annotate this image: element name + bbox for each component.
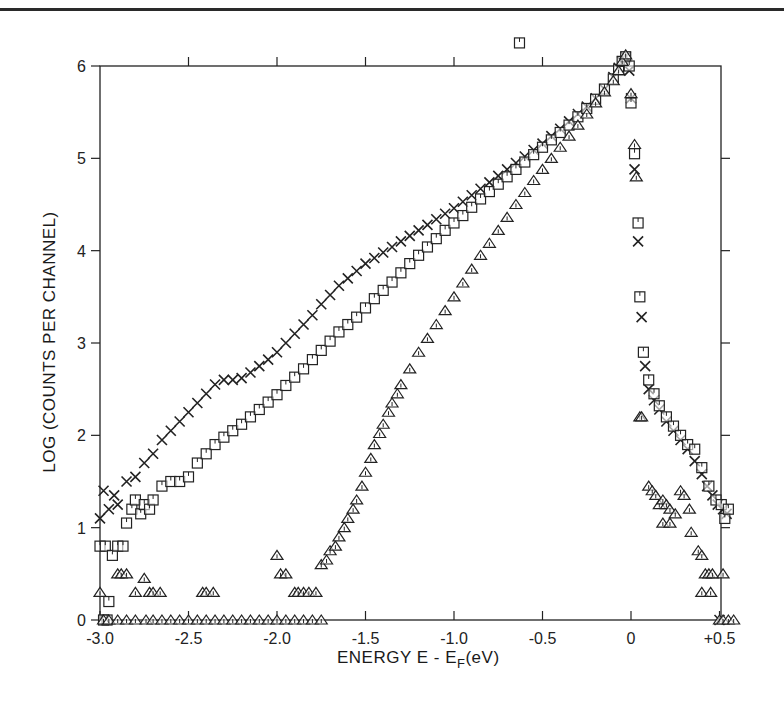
marker-cross xyxy=(316,299,326,309)
marker-cross xyxy=(637,312,647,322)
y-tick-label: 3 xyxy=(77,335,86,352)
marker-cross xyxy=(422,220,432,230)
plot-border xyxy=(100,66,721,620)
marker-cross xyxy=(148,449,158,459)
marker-cross xyxy=(237,373,247,383)
marker-cross xyxy=(414,225,424,235)
y-tick-label: 6 xyxy=(77,58,86,75)
marker-cross xyxy=(369,253,379,263)
x-tick-label: -2.0 xyxy=(263,630,291,647)
x-tick-label: -0.5 xyxy=(529,630,557,647)
marker-cross xyxy=(272,347,282,357)
marker-cross xyxy=(175,416,185,426)
series-squares xyxy=(95,38,733,625)
x-axis-label-unit: (eV) xyxy=(465,648,499,667)
marker-cross xyxy=(396,236,406,246)
marker-cross xyxy=(307,310,317,320)
marker-cross xyxy=(343,273,353,283)
scatter-plot: -3.0-2.5-2.0-1.5-1.0-0.50+0.50123456 xyxy=(0,0,784,709)
marker-cross xyxy=(263,355,273,365)
series-triangles xyxy=(94,50,740,624)
marker-cross xyxy=(139,458,149,468)
y-tick-label: 0 xyxy=(77,612,86,629)
x-tick-label: -2.5 xyxy=(175,630,203,647)
marker-cross xyxy=(192,398,202,408)
marker-cross xyxy=(245,368,255,378)
data-points xyxy=(94,38,740,625)
marker-cross xyxy=(334,281,344,291)
marker-cross xyxy=(201,389,211,399)
x-tick-label: 0 xyxy=(627,630,636,647)
marker-cross xyxy=(633,236,643,246)
marker-cross xyxy=(378,248,388,258)
marker-cross xyxy=(352,266,362,276)
plot-frame xyxy=(100,66,721,620)
marker-cross xyxy=(640,361,650,371)
marker-cross xyxy=(431,214,441,224)
marker-cross xyxy=(157,435,167,445)
marker-cross xyxy=(184,407,194,417)
y-tick-label: 5 xyxy=(77,150,86,167)
y-tick-label: 1 xyxy=(77,520,86,537)
marker-cross xyxy=(405,231,415,241)
x-tick-label: -1.0 xyxy=(440,630,468,647)
x-tick-label: -1.5 xyxy=(352,630,380,647)
marker-cross xyxy=(281,338,291,348)
x-axis-label-main: ENERGY E - E xyxy=(337,648,457,667)
marker-cross xyxy=(440,209,450,219)
x-tick-label: -3.0 xyxy=(86,630,114,647)
marker-cross xyxy=(166,426,176,436)
y-tick-label: 4 xyxy=(77,243,86,260)
marker-cross xyxy=(228,375,238,385)
marker-cross xyxy=(630,164,640,174)
marker-cross xyxy=(290,329,300,339)
marker-cross xyxy=(387,242,397,252)
y-tick-label: 2 xyxy=(77,427,86,444)
marker-cross xyxy=(254,361,264,371)
y-axis-label: LOG (COUNTS PER CHANNEL) xyxy=(40,211,60,472)
marker-cross xyxy=(361,259,371,269)
marker-cross xyxy=(325,290,335,300)
series-crosses xyxy=(95,52,732,625)
x-tick-label: +0.5 xyxy=(704,630,736,647)
marker-cross xyxy=(299,320,309,330)
marker-cross xyxy=(109,490,119,500)
x-axis-label: ENERGY E - EF(eV) xyxy=(337,648,500,671)
